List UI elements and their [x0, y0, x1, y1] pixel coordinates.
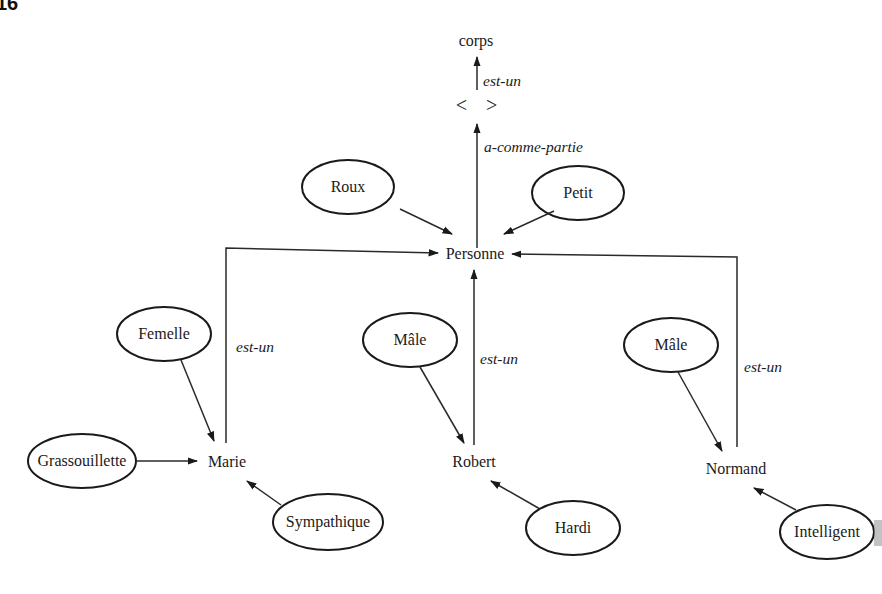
- attr-grassouillette: Grassouillette: [38, 452, 127, 469]
- label-a-comme-partie: a-comme-partie: [484, 138, 583, 155]
- edge-roux-personne: [400, 209, 452, 234]
- edge-male-robert: [420, 367, 464, 443]
- node-corps: corps: [459, 32, 494, 50]
- edge-male-normand: [678, 372, 722, 451]
- semantic-network-diagram: 16 corps est-un < > a-comme-partie Perso…: [0, 0, 882, 594]
- label-est-un-marie: est-un: [236, 338, 274, 355]
- attr-petit: Petit: [563, 184, 593, 201]
- attr-roux: Roux: [331, 178, 366, 195]
- node-personne: Personne: [446, 245, 505, 262]
- page-number: 16: [0, 0, 18, 14]
- node-anonymous: < >: [456, 94, 499, 116]
- label-est-un-top: est-un: [483, 72, 521, 89]
- attr-male-robert: Mâle: [394, 331, 427, 348]
- edge-sympathique-marie: [247, 481, 281, 505]
- edge-intelligent-normand: [754, 488, 796, 510]
- label-est-un-normand: est-un: [744, 358, 782, 375]
- attr-intelligent: Intelligent: [794, 523, 860, 541]
- edge-hardi-robert: [491, 481, 540, 509]
- attr-male-normand: Mâle: [655, 336, 688, 353]
- attr-femelle: Femelle: [138, 325, 190, 342]
- node-normand: Normand: [706, 460, 766, 477]
- edge-femelle-marie: [181, 360, 214, 441]
- node-robert: Robert: [452, 453, 496, 470]
- edge-petit-personne: [504, 211, 554, 234]
- scan-shadow: [874, 520, 882, 546]
- attr-sympathique: Sympathique: [286, 513, 370, 531]
- node-marie: Marie: [208, 453, 246, 470]
- label-est-un-robert: est-un: [480, 350, 518, 367]
- attr-hardi: Hardi: [555, 519, 592, 536]
